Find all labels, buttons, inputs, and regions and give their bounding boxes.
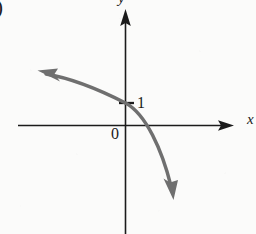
part-label: ) bbox=[0, 0, 3, 18]
y-intercept-value-label: 1 bbox=[137, 95, 145, 111]
math-figure-exponential-decay: ) y x 0 1 bbox=[0, 0, 256, 234]
origin-label: 0 bbox=[111, 126, 119, 142]
exponential-decay-curve bbox=[46, 74, 171, 186]
x-axis-label: x bbox=[247, 112, 254, 127]
y-axis-label: y bbox=[118, 0, 125, 6]
figure-graphics bbox=[0, 0, 256, 234]
